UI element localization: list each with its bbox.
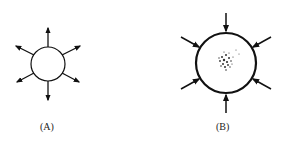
- stippled-center: [218, 50, 239, 71]
- panel-a: (A): [16, 28, 80, 133]
- panel-b: (B): [181, 13, 271, 133]
- circle-b: [196, 33, 256, 93]
- diagram-canvas: (A) (B): [0, 0, 285, 145]
- circle-a: [31, 47, 65, 81]
- outward-arrows: [16, 28, 80, 100]
- panel-b-label: (B): [216, 121, 229, 133]
- panel-a-label: (A): [40, 121, 54, 133]
- inward-arrows: [181, 13, 271, 113]
